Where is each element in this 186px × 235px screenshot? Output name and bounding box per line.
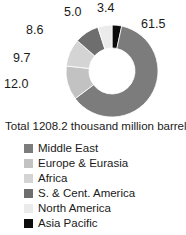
legend-label-africa: Africa (38, 173, 67, 185)
legend-item-asia-pacific[interactable]: Asia Pacific (24, 216, 184, 231)
slice-value-asia-pacific: 3.4 (97, 2, 114, 15)
slice-value-s-and-cent-america: 8.6 (26, 24, 43, 37)
legend-label-middle-east: Middle East (38, 143, 98, 155)
legend-swatch-icon-north-america (24, 204, 33, 213)
legend-item-north-america[interactable]: North America (24, 201, 184, 216)
slice-value-europe-eurasia: 12.0 (4, 78, 28, 91)
slice-value-north-america: 5.0 (64, 6, 81, 19)
legend-swatch-icon-middle-east (24, 144, 33, 153)
donut-chart-figure: 61.5 12.0 9.7 8.6 5.0 3.4 Total 1208.2 t… (0, 0, 186, 235)
slice-value-middle-east: 61.5 (141, 18, 165, 31)
legend-swatch-icon-africa (24, 174, 33, 183)
donut-plot-area: 61.5 12.0 9.7 8.6 5.0 3.4 (0, 0, 186, 118)
legend-label-s-and-cent-america: S. & Cent. America (38, 188, 135, 200)
chart-legend: Middle East Europe & Eurasia Africa S. &… (24, 141, 184, 231)
legend-item-middle-east[interactable]: Middle East (24, 141, 184, 156)
legend-label-north-america: North America (38, 203, 111, 215)
legend-swatch-icon-asia-pacific (24, 219, 33, 228)
donut-slice-group (66, 25, 158, 117)
legend-item-europe-eurasia[interactable]: Europe & Eurasia (24, 156, 184, 171)
legend-swatch-icon-europe-eurasia (24, 159, 33, 168)
legend-item-s-and-cent-america[interactable]: S. & Cent. America (24, 186, 184, 201)
slice-value-africa: 9.7 (13, 52, 30, 65)
legend-label-asia-pacific: Asia Pacific (38, 218, 97, 230)
legend-item-africa[interactable]: Africa (24, 171, 184, 186)
chart-caption: Total 1208.2 thousand million barrels (5, 120, 185, 134)
legend-label-europe-eurasia: Europe & Eurasia (38, 158, 128, 170)
legend-swatch-icon-s-and-cent-america (24, 189, 33, 198)
